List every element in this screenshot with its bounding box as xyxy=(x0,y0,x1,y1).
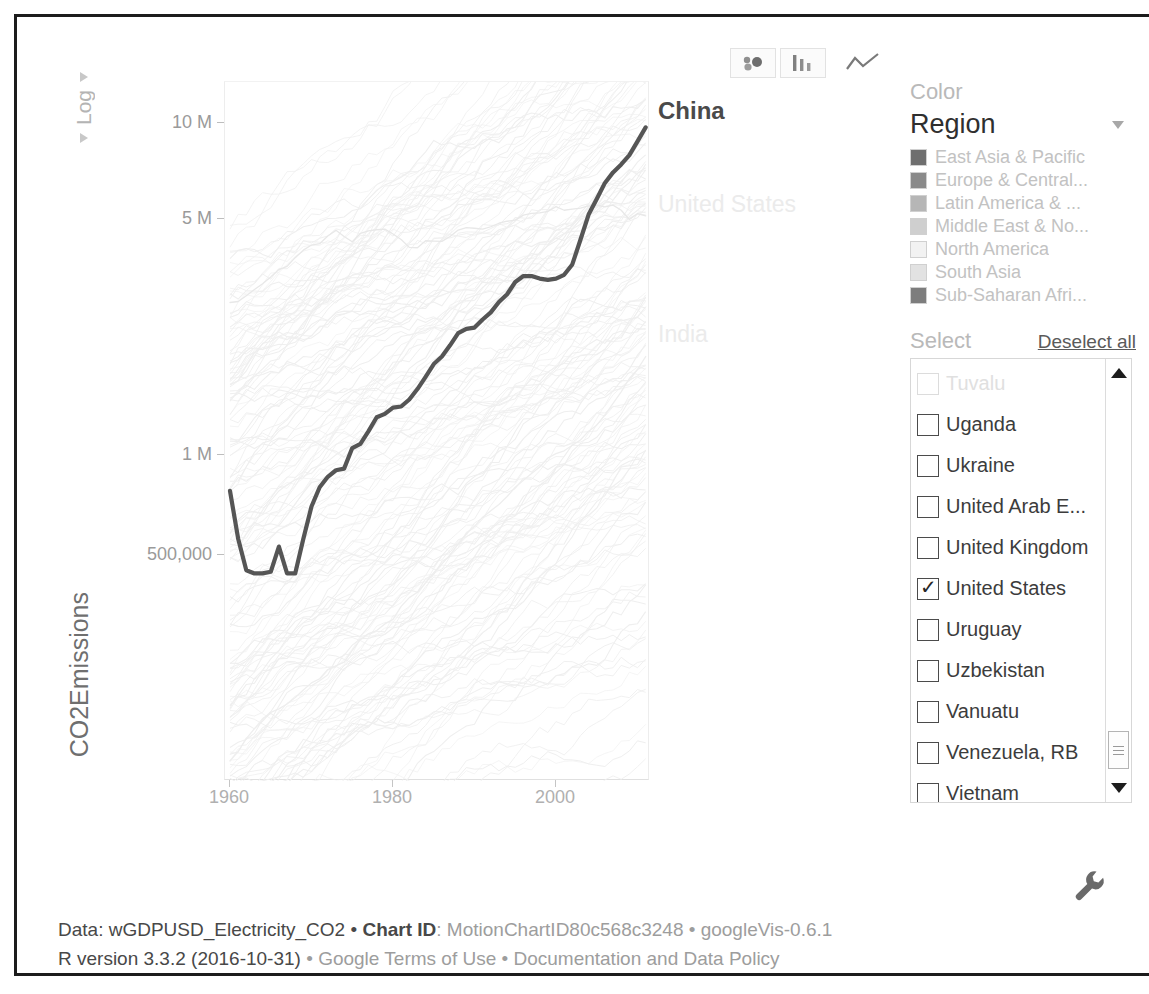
footer-line-1: Data: wGDPUSD_Electricity_CO2 • Chart ID… xyxy=(58,915,832,944)
country-list-item[interactable]: ✓United States xyxy=(917,568,1107,609)
x-tick-mark xyxy=(392,780,393,787)
grip-line xyxy=(1113,750,1124,751)
chevron-down-icon xyxy=(1112,121,1124,129)
legend-item-label: North America xyxy=(935,239,1049,260)
y-tick-label: 10 M xyxy=(137,112,212,133)
country-checkbox[interactable] xyxy=(917,455,939,477)
footer-r-version: R version 3.3.2 (2016-10-31) xyxy=(58,948,301,969)
footer-line-2: R version 3.3.2 (2016-10-31) • Google Te… xyxy=(58,944,832,973)
country-checkbox[interactable] xyxy=(917,783,939,804)
legend-item[interactable]: Europe & Central... xyxy=(910,169,1140,191)
legend-color-swatch xyxy=(910,172,927,189)
country-label: Vanuatu xyxy=(946,700,1019,723)
country-list-item[interactable]: Venezuela, RB xyxy=(917,732,1107,773)
legend-item-label: Middle East & No... xyxy=(935,216,1089,237)
y-tick-mark xyxy=(217,122,224,123)
country-checkbox[interactable] xyxy=(917,742,939,764)
country-label: Vietnam xyxy=(946,782,1019,803)
country-label: Tuvalu xyxy=(946,372,1005,395)
country-checkbox[interactable] xyxy=(917,373,939,395)
legend-color-swatch xyxy=(910,264,927,281)
bar-chart-button[interactable] xyxy=(780,48,826,78)
legend-color-swatch xyxy=(910,149,927,166)
footer-links[interactable]: • Google Terms of Use • Documentation an… xyxy=(301,948,780,969)
country-list-item[interactable]: United Kingdom xyxy=(917,527,1107,568)
legend-item[interactable]: South Asia xyxy=(910,261,1140,283)
country-label: Venezuela, RB xyxy=(946,741,1078,764)
legend-item[interactable]: North America xyxy=(910,238,1140,260)
country-checkbox[interactable] xyxy=(917,496,939,518)
country-label: Uganda xyxy=(946,413,1016,436)
series-label-united-states[interactable]: United States xyxy=(658,191,796,218)
region-legend: East Asia & PacificEurope & Central...La… xyxy=(910,146,1140,306)
y-tick-label: 1 M xyxy=(137,444,212,465)
country-checkbox[interactable]: ✓ xyxy=(917,578,939,600)
footer-chart-id-value: : MotionChartID80c568c3248 • googleVis-0… xyxy=(436,919,832,940)
color-variable-value: Region xyxy=(910,109,996,140)
legend-item[interactable]: Sub-Saharan Afri... xyxy=(910,284,1140,306)
country-listbox[interactable]: TuvaluUgandaUkraineUnited Arab E...Unite… xyxy=(910,358,1132,803)
country-label: United Arab E... xyxy=(946,495,1086,518)
legend-color-swatch xyxy=(910,195,927,212)
footer-data-source: Data: wGDPUSD_Electricity_CO2 • xyxy=(58,919,362,940)
color-variable-dropdown[interactable]: Region xyxy=(910,109,1140,140)
bar-chart-icon xyxy=(789,53,817,73)
window-frame-bottom-edge xyxy=(14,973,1149,976)
country-list-item[interactable]: Vietnam xyxy=(917,773,1107,803)
scale-expand-icon-top[interactable] xyxy=(80,72,88,82)
scroll-up-button[interactable] xyxy=(1106,361,1131,385)
wrench-icon xyxy=(1069,865,1109,905)
y-axis-scale-label: Log xyxy=(72,90,96,125)
country-list-item[interactable]: Uruguay xyxy=(917,609,1107,650)
scrollbar-thumb[interactable] xyxy=(1108,731,1129,769)
country-list-item[interactable]: United Arab E... xyxy=(917,486,1107,527)
legend-item[interactable]: East Asia & Pacific xyxy=(910,146,1140,168)
country-checkbox[interactable] xyxy=(917,414,939,436)
x-tick-label: 2000 xyxy=(535,787,575,808)
settings-button[interactable] xyxy=(1069,865,1109,905)
chart-type-toolbar xyxy=(730,48,890,78)
country-list-item[interactable]: Tuvalu xyxy=(917,363,1107,404)
country-checkbox[interactable] xyxy=(917,701,939,723)
series-label-india[interactable]: India xyxy=(658,321,708,348)
checkmark-icon: ✓ xyxy=(920,576,937,598)
footer-chart-id-label: Chart ID xyxy=(362,919,436,940)
legend-color-swatch xyxy=(910,287,927,304)
grip-line xyxy=(1113,746,1124,747)
scroll-down-button[interactable] xyxy=(1106,776,1131,800)
x-tick-mark xyxy=(229,780,230,787)
footer-credits: Data: wGDPUSD_Electricity_CO2 • Chart ID… xyxy=(58,915,832,973)
country-checkbox[interactable] xyxy=(917,619,939,641)
series-line-india[interactable] xyxy=(230,357,646,761)
listbox-scrollbar[interactable] xyxy=(1105,359,1131,802)
line-chart-button[interactable] xyxy=(840,48,886,78)
deselect-all-link[interactable]: Deselect all xyxy=(1038,331,1136,353)
legend-item[interactable]: Middle East & No... xyxy=(910,215,1140,237)
country-label: Ukraine xyxy=(946,454,1015,477)
line-chart-icon xyxy=(844,52,882,74)
scale-expand-icon-bottom[interactable] xyxy=(80,133,88,143)
legend-item-label: Latin America & ... xyxy=(935,193,1081,214)
plot-area[interactable] xyxy=(224,81,649,780)
triangle-down-icon xyxy=(1111,783,1127,793)
country-checkbox[interactable] xyxy=(917,660,939,682)
legend-item-label: Sub-Saharan Afri... xyxy=(935,285,1087,306)
legend-item[interactable]: Latin America & ... xyxy=(910,192,1140,214)
legend-color-swatch xyxy=(910,241,927,258)
country-list-item[interactable]: Uganda xyxy=(917,404,1107,445)
legend-item-label: East Asia & Pacific xyxy=(935,147,1085,168)
country-list-item[interactable]: Ukraine xyxy=(917,445,1107,486)
country-label: United States xyxy=(946,577,1066,600)
series-label-china[interactable]: China xyxy=(658,97,725,125)
y-tick-mark xyxy=(217,218,224,219)
country-list: TuvaluUgandaUkraineUnited Arab E...Unite… xyxy=(911,359,1107,803)
legend-color-swatch xyxy=(910,218,927,235)
background-country-lines xyxy=(230,82,646,781)
country-list-item[interactable]: Uzbekistan xyxy=(917,650,1107,691)
y-axis-scale-control[interactable]: Log xyxy=(69,72,99,262)
country-list-item[interactable]: Vanuatu xyxy=(917,691,1107,732)
bubble-chart-button[interactable] xyxy=(730,48,776,78)
motion-chart: Log CO2Emissions 10 M 5 M 1 M 500,000 19… xyxy=(17,17,1147,967)
color-panel-caption: Color xyxy=(910,79,1140,105)
country-checkbox[interactable] xyxy=(917,537,939,559)
